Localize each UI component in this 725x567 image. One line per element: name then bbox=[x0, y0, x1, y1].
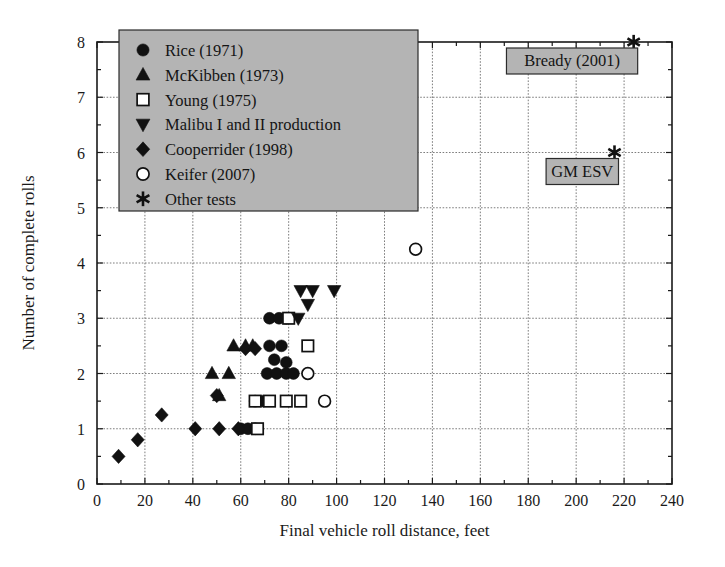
x-tick-label: 140 bbox=[420, 492, 444, 509]
data-point bbox=[276, 340, 288, 352]
legend: Rice (1971)McKibben (1973)Young (1975)Ma… bbox=[119, 30, 418, 211]
y-tick-label: 4 bbox=[77, 255, 85, 272]
data-point bbox=[252, 423, 263, 434]
x-tick-label: 120 bbox=[373, 492, 397, 509]
legend-label: Cooperrider (1998) bbox=[165, 140, 293, 159]
asterisk-center bbox=[140, 196, 145, 201]
annotation-gm-esv: GM ESV bbox=[546, 159, 618, 185]
data-point bbox=[301, 299, 314, 311]
legend-item-malibu-i-and-ii-production[interactable]: Malibu I and II production bbox=[136, 115, 341, 134]
data-point bbox=[281, 395, 292, 406]
y-tick-label: 8 bbox=[77, 34, 85, 51]
legend-marker-open-circle-icon bbox=[137, 168, 149, 180]
x-tick-label: 200 bbox=[564, 492, 588, 509]
data-point bbox=[189, 422, 202, 436]
legend-label: McKibben (1973) bbox=[165, 66, 284, 85]
legend-label: Young (1975) bbox=[165, 91, 256, 110]
asterisk-center bbox=[612, 150, 617, 155]
y-tick-label: 1 bbox=[77, 421, 85, 438]
legend-marker-filled-circle-icon bbox=[137, 44, 149, 56]
annotation-bready-2001: Bready (2001) bbox=[506, 48, 637, 74]
data-point bbox=[264, 340, 276, 352]
data-point bbox=[205, 366, 218, 378]
x-tick-label: 80 bbox=[281, 492, 297, 509]
data-point bbox=[280, 357, 292, 369]
y-tick-label: 0 bbox=[77, 476, 85, 493]
legend-label: Keifer (2007) bbox=[165, 165, 255, 184]
data-point bbox=[302, 368, 314, 380]
x-tick-label: 160 bbox=[468, 492, 492, 509]
y-tick-label: 7 bbox=[77, 89, 85, 106]
y-tick-label: 6 bbox=[77, 145, 85, 162]
legend-label: Other tests bbox=[165, 190, 236, 209]
series-keifer-2007 bbox=[302, 243, 422, 407]
x-tick-label: 60 bbox=[233, 492, 249, 509]
data-point bbox=[410, 243, 422, 255]
data-point bbox=[302, 340, 313, 351]
x-tick-label: 220 bbox=[612, 492, 636, 509]
annotation-label: Bready (2001) bbox=[524, 51, 620, 70]
data-point bbox=[264, 395, 275, 406]
y-tick-label: 5 bbox=[77, 200, 85, 217]
legend-marker-open-square-icon bbox=[137, 94, 149, 106]
y-axis-label: Number of complete rolls bbox=[19, 175, 38, 350]
series-cooperrider-1998 bbox=[112, 342, 262, 464]
x-axis-label: Final vehicle roll distance, feet bbox=[279, 521, 489, 540]
data-point bbox=[213, 422, 226, 436]
series-malibu-i-and-ii-production bbox=[292, 286, 341, 326]
annotation-label: GM ESV bbox=[551, 162, 613, 181]
x-tick-label: 180 bbox=[516, 492, 540, 509]
x-tick-label: 0 bbox=[93, 492, 101, 509]
data-point bbox=[227, 339, 240, 351]
annotations: Bready (2001)GM ESV bbox=[506, 48, 637, 185]
x-tick-label: 100 bbox=[325, 492, 349, 509]
data-point bbox=[288, 368, 300, 380]
x-tick-label: 40 bbox=[185, 492, 201, 509]
x-tick-label: 240 bbox=[660, 492, 684, 509]
scatter-plot: 0204060801001201401601802002202400123456… bbox=[0, 0, 725, 567]
data-point bbox=[131, 433, 144, 447]
data-point bbox=[222, 366, 235, 378]
chart-figure: 0204060801001201401601802002202400123456… bbox=[0, 0, 725, 567]
data-point bbox=[268, 354, 280, 366]
data-point bbox=[112, 449, 125, 463]
data-point bbox=[306, 286, 319, 298]
legend-label: Rice (1971) bbox=[165, 41, 243, 60]
data-point bbox=[155, 408, 168, 422]
legend-label: Malibu I and II production bbox=[165, 115, 341, 134]
y-tick-label: 2 bbox=[77, 366, 85, 383]
data-point bbox=[295, 395, 306, 406]
x-tick-label: 20 bbox=[137, 492, 153, 509]
data-point bbox=[319, 395, 331, 407]
asterisk-center bbox=[631, 39, 636, 44]
data-point bbox=[294, 286, 307, 298]
y-tick-label: 3 bbox=[77, 310, 85, 327]
data-point bbox=[249, 395, 260, 406]
data-point bbox=[327, 286, 340, 298]
